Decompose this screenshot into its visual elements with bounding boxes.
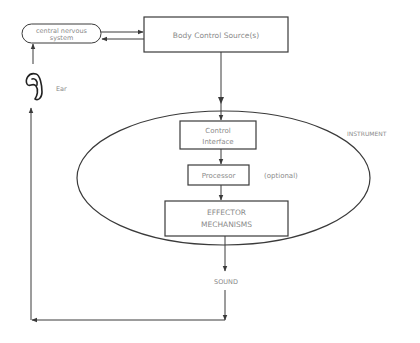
control-interface-line2: Interface: [202, 138, 233, 146]
processor-optional-note: (optional): [264, 172, 298, 180]
processor-label: Processor: [202, 172, 236, 180]
effector-node: EFFECTOR MECHANISMS: [165, 201, 288, 236]
cns-node: central nervous system: [22, 24, 101, 43]
ear-icon: [26, 74, 42, 100]
body-control-node: Body Control Source(s): [144, 17, 288, 52]
processor-node: Processor: [188, 165, 249, 185]
ear-label: Ear: [56, 85, 67, 93]
effector-line2: MECHANISMS: [201, 220, 252, 229]
sound-label: SOUND: [214, 278, 238, 286]
instrument-label: INSTRUMENT: [347, 130, 387, 137]
control-interface-line1: Control: [205, 127, 230, 135]
effector-line1: EFFECTOR: [207, 208, 246, 217]
mid-arrowhead-icon: [218, 97, 224, 104]
cns-label-line2: system: [50, 34, 74, 42]
instrument-diagram: central nervous system Body Control Sour…: [0, 0, 420, 343]
body-control-label: Body Control Source(s): [173, 31, 259, 40]
control-interface-node: Control Interface: [180, 121, 256, 149]
